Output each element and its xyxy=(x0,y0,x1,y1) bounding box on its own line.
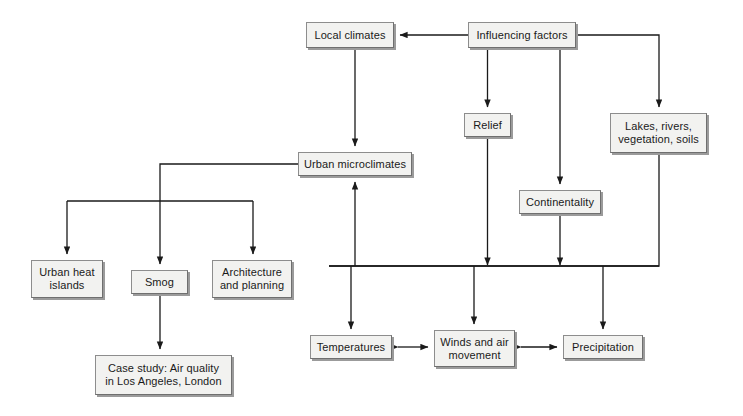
node-label: Temperatures xyxy=(315,341,387,354)
node-urban-heat-islands[interactable]: Urban heat islands xyxy=(31,260,103,298)
node-relief[interactable]: Relief xyxy=(464,113,511,137)
node-urban-microclimates[interactable]: Urban microclimates xyxy=(298,152,412,176)
node-influencing-factors[interactable]: Influencing factors xyxy=(468,22,576,48)
node-temperatures[interactable]: Temperatures xyxy=(310,335,392,359)
node-continentality[interactable]: Continentality xyxy=(519,190,601,214)
node-smog[interactable]: Smog xyxy=(131,270,188,294)
node-case-study[interactable]: Case study: Air quality in Los Angeles, … xyxy=(95,355,232,395)
node-architecture-and-planning[interactable]: Architecture and planning xyxy=(212,260,292,298)
node-label: Precipitation xyxy=(568,341,638,354)
node-label: Lakes, rivers, vegetation, soils xyxy=(615,120,702,146)
node-label: Relief xyxy=(469,119,506,132)
node-label: Local climates xyxy=(311,29,389,42)
node-label: Urban heat islands xyxy=(36,266,98,292)
edge-urban-microclimates-to-branch-trunk xyxy=(160,164,298,201)
node-winds-and-air-movement[interactable]: Winds and air movement xyxy=(434,330,515,367)
node-local-climates[interactable]: Local climates xyxy=(306,22,394,48)
edge-influencing-to-lakes xyxy=(576,35,659,107)
node-label: Architecture and planning xyxy=(217,266,287,292)
node-label: Influencing factors xyxy=(473,29,571,42)
node-label: Case study: Air quality in Los Angeles, … xyxy=(100,362,227,388)
flowchart-canvas: Local climates Influencing factors Relie… xyxy=(0,0,743,416)
node-label: Continentality xyxy=(524,196,596,209)
node-label: Winds and air movement xyxy=(439,336,510,362)
node-label: Smog xyxy=(136,276,183,289)
node-precipitation[interactable]: Precipitation xyxy=(563,335,643,359)
node-label: Urban microclimates xyxy=(303,158,407,171)
node-lakes-rivers-vegetation-soils[interactable]: Lakes, rivers, vegetation, soils xyxy=(610,113,707,153)
